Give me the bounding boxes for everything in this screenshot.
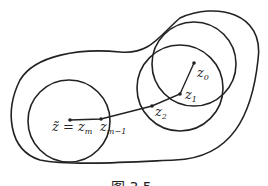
point-z0	[192, 61, 196, 65]
figure-caption: 图 3.5	[111, 179, 152, 186]
path-polyline	[70, 63, 194, 120]
label-zm: z̃ = zm	[51, 119, 93, 136]
diagram: z0 z1 z2 zm−1 z̃ = zm 图 3.5	[0, 0, 268, 186]
label-z1: z1	[184, 87, 197, 104]
outer-region	[11, 11, 258, 163]
circle-z1	[137, 45, 223, 131]
label-z2: z2	[154, 104, 167, 121]
point-z2	[150, 104, 154, 108]
label-z0: z0	[196, 65, 209, 82]
label-zm1: zm−1	[99, 119, 126, 136]
point-z1	[178, 92, 182, 96]
